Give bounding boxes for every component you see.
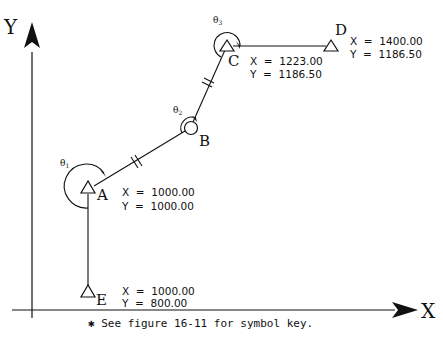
station-E-label: E xyxy=(96,291,107,309)
x-axis-label: X xyxy=(421,299,436,323)
station-A-x: X = 1000.00 xyxy=(122,186,195,198)
triangle-icon xyxy=(324,40,338,51)
svg-text:θ2: θ2 xyxy=(173,105,182,116)
triangle-icon xyxy=(220,40,234,51)
station-D-label: D xyxy=(335,21,347,39)
station-C-label: C xyxy=(228,52,239,70)
traverse-diagram: Y X θ1 θ2 θ3 A X = 1000.00 xyxy=(0,0,443,341)
triangle-icon xyxy=(81,181,95,193)
line-A-B xyxy=(94,131,185,186)
station-E-y: Y = 800.00 xyxy=(121,297,187,309)
circle-icon xyxy=(185,122,198,135)
station-D-x: X = 1400.00 xyxy=(350,35,423,47)
y-axis: Y xyxy=(3,15,40,318)
svg-text:θ3: θ3 xyxy=(213,15,222,26)
traverse-lines xyxy=(88,46,326,286)
triangle-icon xyxy=(81,285,95,297)
station-D: D X = 1400.00 Y = 1186.50 xyxy=(324,21,423,60)
station-A-y: Y = 1000.00 xyxy=(121,200,194,212)
station-B-label: B xyxy=(199,132,210,150)
station-A-label: A xyxy=(96,186,108,204)
y-axis-arrow-icon xyxy=(24,22,40,48)
station-A: A X = 1000.00 Y = 1000.00 xyxy=(81,181,195,212)
footnote: ✱ See figure 16-11 for symbol key. xyxy=(88,317,313,330)
station-C-x: X = 1223.00 xyxy=(250,55,323,67)
svg-text:θ1: θ1 xyxy=(60,158,69,169)
x-axis-arrow-icon xyxy=(392,302,418,318)
station-D-y: Y = 1186.50 xyxy=(349,48,422,60)
station-E-x: X = 1000.00 xyxy=(122,285,195,297)
station-C-y: Y = 1186.50 xyxy=(249,68,322,80)
station-E: E X = 1000.00 Y = 800.00 xyxy=(81,285,195,309)
station-B: B xyxy=(185,122,211,151)
y-axis-label: Y xyxy=(3,15,18,39)
